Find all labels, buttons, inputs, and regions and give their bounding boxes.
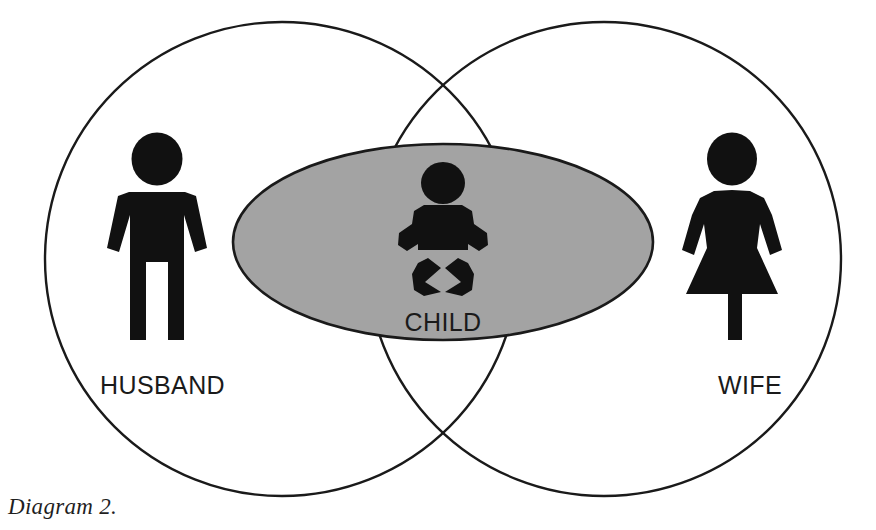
venn-diagram: HUSBAND WIFE CHILD Diagram 2. [0, 0, 876, 530]
diagram-caption: Diagram 2. [7, 494, 117, 519]
label-child: CHILD [404, 308, 481, 336]
female-figure-icon [682, 133, 782, 341]
male-figure-icon [107, 133, 207, 341]
label-wife: WIFE [718, 371, 782, 399]
diagram-canvas: HUSBAND WIFE CHILD Diagram 2. [0, 0, 876, 530]
label-husband: HUSBAND [100, 371, 225, 399]
